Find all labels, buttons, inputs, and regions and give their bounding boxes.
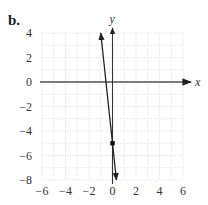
- x-tick-label: 4: [157, 184, 163, 198]
- x-tick-label: 0: [110, 184, 116, 198]
- y-tick-label: 4: [26, 26, 32, 40]
- y-tick-label: 2: [26, 51, 32, 65]
- x-tick-label: 2: [133, 184, 139, 198]
- x-tick-label: −2: [83, 184, 96, 198]
- y-tick-label: 0: [26, 75, 32, 89]
- y-tick-label: −6: [19, 149, 32, 163]
- x-axis-label: x: [194, 75, 201, 89]
- y-tick-label: −4: [19, 124, 32, 138]
- x-tick-label: −6: [36, 184, 49, 198]
- y-axis-label: y: [109, 12, 116, 26]
- axes: [40, 28, 191, 184]
- x-tick-label: −4: [59, 184, 72, 198]
- data-point: [110, 141, 114, 145]
- y-tick-label: −2: [19, 100, 32, 114]
- y-tick-label: −8: [19, 173, 32, 187]
- x-tick-label: 6: [180, 184, 186, 198]
- chart: −6−4−20246−8−6−4−2024 x y: [0, 0, 208, 205]
